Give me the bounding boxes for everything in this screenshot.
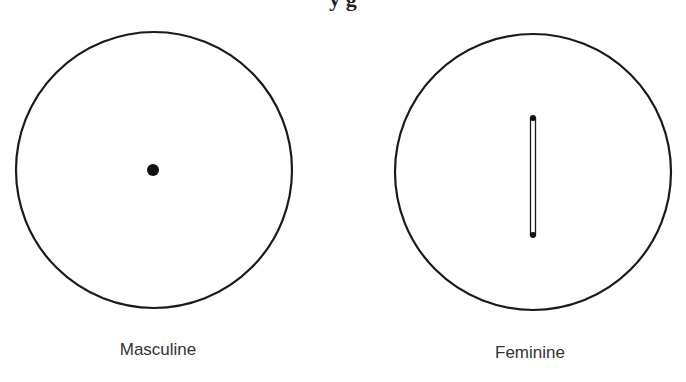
masculine-caption: Masculine <box>68 340 248 360</box>
feminine-vertical-slot <box>531 118 536 235</box>
polarity-diagram <box>0 0 686 382</box>
feminine-symbol <box>395 34 671 310</box>
feminine-slot-top-dot <box>530 115 536 121</box>
feminine-slot-bottom-dot <box>530 232 536 238</box>
masculine-symbol <box>16 32 292 308</box>
masculine-center-dot <box>147 164 159 176</box>
feminine-caption: Feminine <box>440 343 620 363</box>
